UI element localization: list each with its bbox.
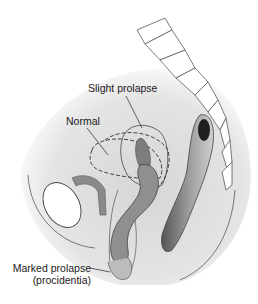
label-marked-prolapse: Marked prolapse (procidentia) — [9, 262, 91, 286]
label-normal: Normal — [66, 115, 100, 127]
label-slight-prolapse: Slight prolapse — [88, 82, 157, 94]
pelvic-anatomy-illustration — [0, 0, 258, 304]
rectal-opening — [198, 119, 210, 141]
label-marked-prolapse-line1: Marked prolapse — [9, 262, 91, 274]
label-marked-prolapse-line2: (procidentia) — [9, 274, 91, 286]
